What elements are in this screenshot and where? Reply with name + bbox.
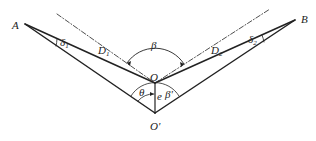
delta1-subscript: 1	[65, 42, 69, 50]
D2-subscript: 2	[219, 50, 223, 58]
line-B-O	[155, 20, 295, 83]
delta2-subscript: 2	[253, 39, 257, 47]
label-delta2: δ2	[248, 34, 257, 47]
D1-symbol: D	[98, 44, 106, 56]
label-beta-prime: β'	[165, 89, 173, 100]
D1-subscript: 1	[106, 50, 110, 58]
label-D1: D1	[98, 45, 109, 58]
label-D2: D2	[211, 45, 222, 58]
label-beta: β	[151, 40, 156, 51]
line-B-Oprime	[155, 20, 295, 113]
label-theta: θ	[139, 87, 144, 98]
label-O: O	[150, 72, 158, 83]
D2-symbol: D	[211, 44, 219, 56]
geometry-diagram: A B O O' δ1 δ2 D1 D2 β θ e β'	[0, 0, 316, 141]
label-delta1: δ1	[60, 37, 69, 50]
label-O-prime: O'	[150, 121, 160, 132]
line-A-O	[25, 24, 155, 83]
label-e: e	[157, 91, 162, 102]
label-B: B	[301, 14, 308, 25]
label-A: A	[12, 20, 19, 31]
